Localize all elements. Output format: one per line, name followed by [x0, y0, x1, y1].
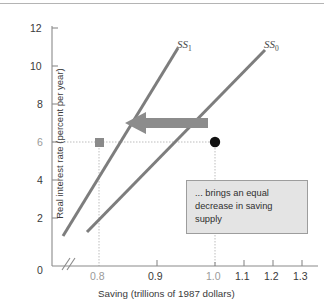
y-axis-title: Real interest rate (percent per year): [54, 29, 65, 259]
y-tick-label-4: 4: [37, 174, 43, 186]
y-tick-label-10: 10: [30, 60, 42, 72]
curve-label-ss0-sub: 0: [275, 44, 279, 53]
callout-box: ... brings an equal decrease in saving s…: [186, 180, 308, 234]
curve-label-ss0: SS0: [264, 38, 279, 53]
y-tick-label-2: 2: [37, 212, 43, 224]
x-tick-label-1-3: 1.3: [293, 270, 308, 282]
curve-label-ss1-text: SS: [177, 38, 188, 50]
x-tick-label-1-0: 1.0: [206, 270, 221, 282]
axis-break-symbol: [62, 258, 75, 270]
y-tick-label-6: 6: [37, 136, 43, 148]
x-axis-ticks: [157, 260, 302, 266]
marker-equilibrium-ss1: [95, 138, 104, 147]
x-tick-label-0-8: 0.8: [90, 270, 105, 282]
curve-label-ss1-sub: 1: [188, 44, 192, 53]
x-tick-label-1-2: 1.2: [264, 270, 279, 282]
y-tick-label-12: 12: [30, 22, 42, 34]
curve-label-ss0-text: SS: [264, 38, 275, 50]
x-tick-label-1-1: 1.1: [235, 270, 250, 282]
saving-supply-chart: Real interest rate (percent per year) Sa…: [0, 0, 324, 304]
marker-equilibrium-ss0: [210, 137, 220, 147]
y-tick-label-8: 8: [37, 98, 43, 110]
x-tick-label-0-9: 0.9: [148, 270, 163, 282]
curve-label-ss1: SS1: [177, 38, 192, 53]
origin-label: 0: [37, 264, 43, 276]
x-axis-title: Saving (trillions of 1987 dollars): [98, 288, 235, 299]
